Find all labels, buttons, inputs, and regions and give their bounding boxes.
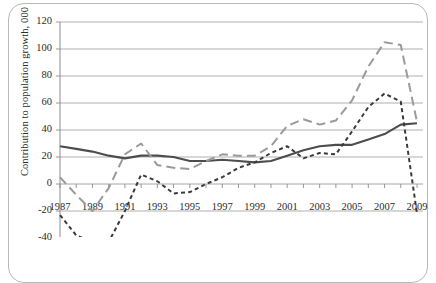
series-net-migration-short-dash: [60, 94, 417, 237]
